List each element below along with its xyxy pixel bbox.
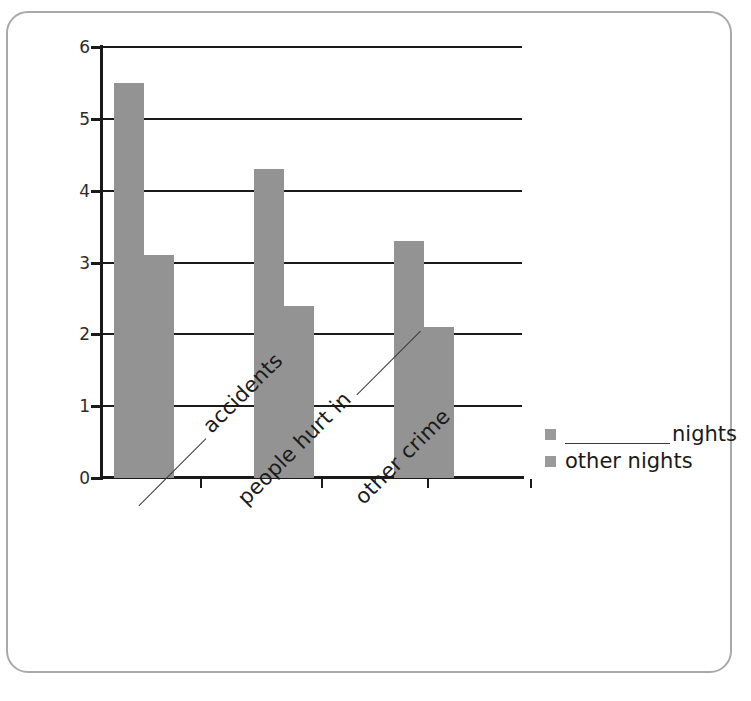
bar-series1-cat2 (424, 327, 454, 478)
y-tick-6 (91, 46, 100, 49)
bar-series1-cat0 (144, 255, 174, 478)
legend-item-0: nights (545, 421, 737, 448)
y-tick-label-5: 5 (68, 111, 90, 128)
gridline-6 (100, 46, 522, 48)
y-tick-label-2: 2 (68, 326, 90, 343)
x-tick-2 (427, 479, 429, 488)
y-tick-5 (91, 118, 100, 121)
x-tick-1 (321, 479, 323, 488)
y-tick-label-0: 0 (68, 470, 90, 487)
y-tick-label-3: 3 (68, 255, 90, 272)
y-tick-label-6: 6 (68, 39, 90, 56)
bar-series0-cat0 (114, 83, 144, 478)
y-tick-3 (91, 262, 100, 265)
legend-label-0: nights (672, 421, 737, 448)
chart-legend: nights other nights (545, 421, 737, 475)
gridline-4 (100, 190, 522, 192)
chart-page: 0123456 accidentspeople hurt in other cr… (0, 0, 751, 701)
legend-item-1: other nights (545, 448, 737, 475)
y-tick-label-4: 4 (68, 183, 90, 200)
y-tick-4 (91, 190, 100, 193)
y-tick-label-1: 1 (68, 398, 90, 415)
y-tick-1 (91, 405, 100, 408)
legend-label-1: other nights (565, 448, 693, 475)
y-tick-0 (91, 477, 100, 480)
gridline-5 (100, 118, 522, 120)
x-tick-3 (530, 479, 532, 488)
legend-blank-line-0 (565, 425, 670, 445)
y-tick-2 (91, 333, 100, 336)
legend-swatch-icon-0 (545, 429, 556, 440)
x-tick-0 (200, 479, 202, 488)
bar-series0-cat1 (254, 169, 284, 478)
legend-swatch-icon-1 (545, 456, 556, 467)
